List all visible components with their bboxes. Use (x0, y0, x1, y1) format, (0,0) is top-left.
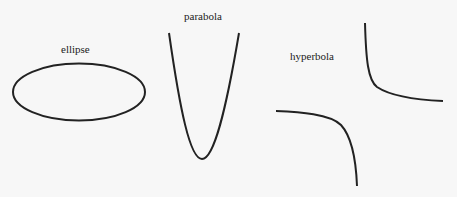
hyperbola-label: hyperbola (290, 51, 334, 62)
parabola-curve (169, 33, 239, 159)
ellipse-label: ellipse (61, 44, 90, 55)
curves-layer (0, 0, 457, 197)
ellipse-curve (13, 64, 145, 121)
parabola-label: parabola (184, 11, 222, 22)
hyperbola-upper-branch (365, 23, 443, 101)
hyperbola-lower-branch (276, 111, 357, 186)
conic-sections-diagram: ellipse parabola hyperbola (0, 0, 457, 197)
